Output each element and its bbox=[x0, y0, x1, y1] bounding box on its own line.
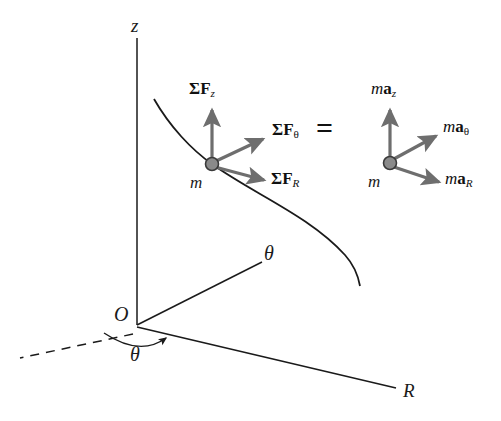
z-axis-label: z bbox=[131, 16, 138, 35]
sum-F-z-label: ΣFz bbox=[189, 80, 215, 99]
subscript-R: R bbox=[466, 177, 473, 189]
sum-F-theta-label: ΣFθ bbox=[272, 121, 299, 140]
sum-F-R-label: ΣFR bbox=[271, 170, 299, 189]
accel-glyph: a bbox=[383, 79, 392, 98]
subscript-z: z bbox=[211, 87, 215, 99]
sum-F-theta-arrow bbox=[214, 139, 263, 162]
mass-glyph: m bbox=[371, 79, 383, 98]
equals-sign: = bbox=[316, 113, 333, 143]
mass-label-kinetic: m bbox=[368, 173, 380, 190]
free-body-vectors bbox=[206, 110, 265, 180]
theta-axis-line bbox=[137, 262, 262, 325]
ma-theta-label: maθ bbox=[443, 118, 469, 137]
ma-theta-arrow bbox=[392, 136, 436, 160]
kinetic-diagram-vectors bbox=[384, 110, 440, 182]
ma-R-arrow bbox=[394, 167, 439, 182]
force-glyph: F bbox=[282, 169, 292, 188]
subscript-theta: θ bbox=[464, 125, 469, 137]
subscript-z: z bbox=[392, 87, 396, 99]
particle-dot-kinetic bbox=[384, 157, 397, 170]
R-axis-label: R bbox=[403, 381, 415, 400]
force-glyph: F bbox=[283, 120, 293, 139]
sigma-glyph: Σ bbox=[272, 120, 283, 139]
subscript-R: R bbox=[293, 177, 300, 189]
R-axis-line bbox=[137, 327, 396, 388]
theta-axis-label: θ bbox=[264, 243, 274, 263]
origin-label: O bbox=[114, 304, 128, 324]
ma-R-label: maR bbox=[445, 170, 473, 189]
accel-glyph: a bbox=[455, 117, 464, 136]
subscript-theta: θ bbox=[294, 128, 299, 140]
mass-glyph: m bbox=[443, 117, 455, 136]
sigma-glyph: Σ bbox=[189, 79, 200, 98]
sigma-glyph: Σ bbox=[271, 169, 282, 188]
force-glyph: F bbox=[200, 79, 210, 98]
diagram-canvas bbox=[0, 0, 501, 421]
mass-glyph: m bbox=[445, 169, 457, 188]
theta-angle-label: θ bbox=[130, 344, 140, 364]
sum-F-R-arrow bbox=[215, 167, 264, 180]
accel-glyph: a bbox=[457, 169, 466, 188]
mass-label-fbd: m bbox=[190, 174, 202, 191]
particle-dot-fbd bbox=[206, 158, 219, 171]
reference-axis-dashed-line bbox=[20, 334, 133, 358]
physics-diagram: z θ R O θ m ΣFz ΣFθ ΣFR = m maz maθ maR bbox=[0, 0, 501, 421]
ma-z-label: maz bbox=[371, 80, 396, 99]
